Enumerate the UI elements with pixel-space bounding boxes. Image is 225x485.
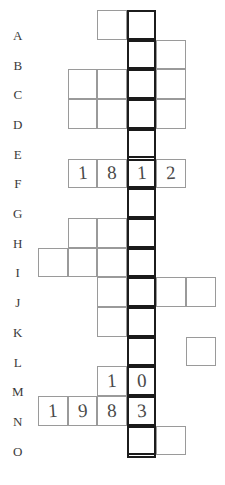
grid-cell-a4[interactable]	[127, 10, 157, 40]
cell-value-f5: 2	[156, 162, 187, 183]
cell-value-m3: 1	[97, 370, 128, 391]
grid-cell-j5[interactable]	[156, 277, 186, 307]
grid-cell-h4[interactable]	[127, 218, 157, 248]
row-label-m: M	[8, 385, 28, 398]
row-label-d: D	[8, 118, 28, 131]
row-label-k: K	[8, 326, 28, 339]
row-label-b: B	[8, 59, 28, 72]
row-label-g: G	[8, 207, 28, 220]
grid-cell-k4[interactable]	[127, 307, 157, 337]
grid-cell-h3[interactable]	[97, 218, 127, 248]
grid-cell-b4[interactable]	[127, 40, 157, 70]
grid-cell-d4[interactable]	[127, 99, 157, 129]
row-label-h: H	[8, 237, 28, 250]
grid-cell-c3[interactable]	[97, 69, 127, 99]
grid-cell-h2[interactable]	[68, 218, 98, 248]
row-label-j: J	[8, 296, 28, 309]
highlighted-column-bottom-cap	[127, 456, 157, 458]
cell-value-n4: 3	[126, 400, 157, 421]
grid-cell-o5[interactable]	[156, 426, 186, 456]
cell-value-n2: 9	[67, 400, 98, 421]
row-label-c: C	[8, 88, 28, 101]
grid-cell-k3[interactable]	[97, 307, 127, 337]
grid-cell-i1[interactable]	[38, 248, 68, 278]
grid-cell-o4[interactable]	[127, 426, 157, 456]
grid-cell-j6[interactable]	[186, 277, 216, 307]
row-label-f: F	[8, 177, 28, 190]
grid-cell-i4[interactable]	[127, 248, 157, 278]
row-label-n: N	[8, 415, 28, 428]
grid-cell-j4[interactable]	[127, 277, 157, 307]
cell-value-m4: 0	[126, 370, 157, 391]
puzzle-grid: ABCDEFGHIJKLMNO1812101983	[0, 0, 225, 485]
grid-cell-i3[interactable]	[97, 248, 127, 278]
grid-cell-l6[interactable]	[186, 337, 216, 367]
row-label-l: L	[8, 356, 28, 369]
grid-cell-c4[interactable]	[127, 69, 157, 99]
cell-value-n3: 8	[97, 400, 128, 421]
grid-cell-i2[interactable]	[68, 248, 98, 278]
grid-cell-b5[interactable]	[156, 40, 186, 70]
row-label-a: A	[8, 29, 28, 42]
row-label-i: I	[8, 266, 28, 279]
row-label-o: O	[8, 445, 28, 458]
grid-cell-c5[interactable]	[156, 69, 186, 99]
cell-value-n1: 1	[37, 400, 68, 421]
grid-cell-l4[interactable]	[127, 337, 157, 367]
cell-value-f2: 1	[67, 162, 98, 183]
grid-cell-a3[interactable]	[97, 10, 127, 40]
grid-cell-d2[interactable]	[68, 99, 98, 129]
grid-cell-d3[interactable]	[97, 99, 127, 129]
grid-cell-j3[interactable]	[97, 277, 127, 307]
cell-value-f3: 8	[97, 162, 128, 183]
cell-value-f4: 1	[126, 162, 157, 183]
grid-cell-d5[interactable]	[156, 99, 186, 129]
grid-cell-c2[interactable]	[68, 69, 98, 99]
grid-cell-e4[interactable]	[127, 129, 157, 159]
grid-cell-g4[interactable]	[127, 188, 157, 218]
row-label-e: E	[8, 148, 28, 161]
